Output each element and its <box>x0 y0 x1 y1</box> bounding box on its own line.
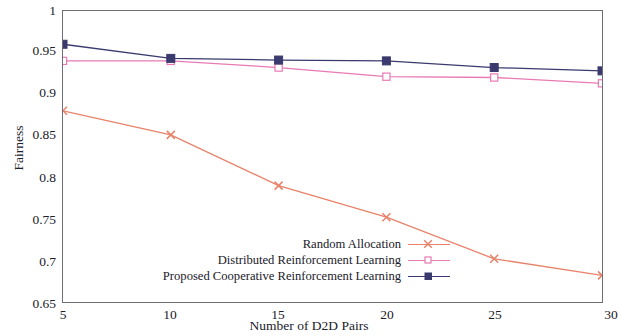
series-line <box>63 44 602 71</box>
y-axis-tick-label: 0.7 <box>0 255 56 269</box>
data-point-filled-square-marker <box>382 57 390 65</box>
legend-swatch-filled-square-marker <box>408 270 450 282</box>
y-axis-tick-label: 0.75 <box>0 213 56 227</box>
data-point-open-square-marker <box>598 80 602 87</box>
data-point-open-square-marker <box>491 74 498 81</box>
data-point-open-square-marker <box>275 64 282 71</box>
legend-label: Random Allocation <box>303 236 401 253</box>
legend-swatch-x-marker <box>408 238 450 250</box>
data-point-filled-square-marker <box>167 54 175 62</box>
y-axis-tick-label: 0.9 <box>0 86 56 100</box>
open-square-marker-icon <box>423 255 433 265</box>
legend-item-proposed-cooperative-rl: Proposed Cooperative Reinforcement Learn… <box>150 268 450 284</box>
x-axis-title: Number of D2D Pairs <box>0 318 618 334</box>
fairness-vs-d2d-pairs-chart: 1 0.95 0.9 0.85 0.8 0.75 0.7 0.65 5 10 1… <box>0 0 618 336</box>
legend-item-random-allocation: Random Allocation <box>150 236 450 252</box>
legend-swatch-open-square-marker <box>408 254 450 266</box>
series-line <box>63 61 602 83</box>
data-point-x-marker <box>382 213 390 221</box>
series-proposed-cooperative-reinforcement-learning <box>63 40 602 75</box>
legend-label: Proposed Cooperative Reinforcement Learn… <box>163 268 401 285</box>
y-axis-tick-label: 1 <box>0 4 56 18</box>
y-axis-title: Fairness <box>11 103 27 193</box>
data-point-open-square-marker <box>63 57 67 64</box>
legend-label: Distributed Reinforcement Learning <box>218 252 401 269</box>
x-marker-icon <box>423 239 433 249</box>
legend-item-distributed-rl: Distributed Reinforcement Learning <box>150 252 450 268</box>
data-point-filled-square-marker <box>490 64 498 72</box>
chart-legend: Random Allocation Distributed Reinforcem… <box>150 236 450 284</box>
y-axis-tick-label: 0.85 <box>0 128 56 142</box>
y-axis-tick-label: 0.8 <box>0 171 56 185</box>
data-point-filled-square-marker <box>598 67 602 75</box>
data-point-open-square-marker <box>383 73 390 80</box>
filled-square-marker-icon <box>423 271 433 281</box>
data-point-x-marker <box>275 182 283 190</box>
y-axis-tick-label: 0.95 <box>0 44 56 58</box>
data-point-filled-square-marker <box>63 40 67 48</box>
data-point-filled-square-marker <box>275 56 283 64</box>
series-distributed-reinforcement-learning <box>63 57 602 87</box>
